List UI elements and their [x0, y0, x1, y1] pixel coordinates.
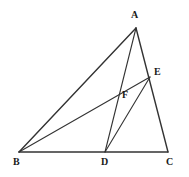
segments-group: [19, 28, 168, 152]
segment-ab: [19, 28, 136, 152]
geometry-figure: ABCDEF: [0, 0, 189, 177]
segment-be: [19, 77, 150, 152]
vertex-label-f: F: [122, 90, 128, 100]
vertex-label-b: B: [13, 157, 20, 167]
vertex-label-d: D: [101, 157, 108, 167]
vertex-label-a: A: [131, 10, 138, 20]
geometry-canvas: [0, 0, 189, 177]
vertex-label-c: C: [166, 157, 173, 167]
vertex-label-e: E: [154, 67, 161, 77]
segment-ac: [136, 28, 168, 152]
segment-ad: [105, 28, 136, 152]
